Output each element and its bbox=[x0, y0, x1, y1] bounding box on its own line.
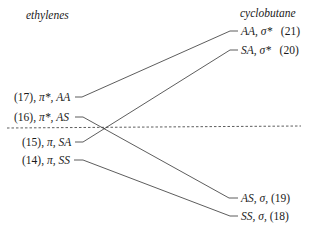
line-aa bbox=[75, 31, 238, 97]
dashed-divider bbox=[7, 126, 301, 128]
line-ss bbox=[74, 160, 238, 216]
correlation-lines bbox=[0, 0, 309, 231]
line-as bbox=[75, 117, 238, 198]
